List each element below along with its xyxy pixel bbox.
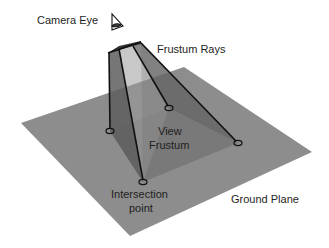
- ground-plane-label: Ground Plane: [231, 193, 299, 205]
- view-frustum-label-line1: View: [158, 125, 182, 137]
- frustum-diagram: Camera Eye Frustum Rays View Frustum Int…: [0, 0, 329, 248]
- camera-eye-label: Camera Eye: [37, 14, 98, 26]
- ray-left: [109, 53, 110, 129]
- view-frustum-label-line2: Frustum: [149, 139, 189, 151]
- intersection-label-line1: Intersection: [111, 188, 168, 200]
- frustum-rays-label: Frustum Rays: [157, 43, 226, 55]
- eye-in-triangle-icon: [112, 14, 123, 30]
- intersection-label-line2: point: [129, 202, 153, 214]
